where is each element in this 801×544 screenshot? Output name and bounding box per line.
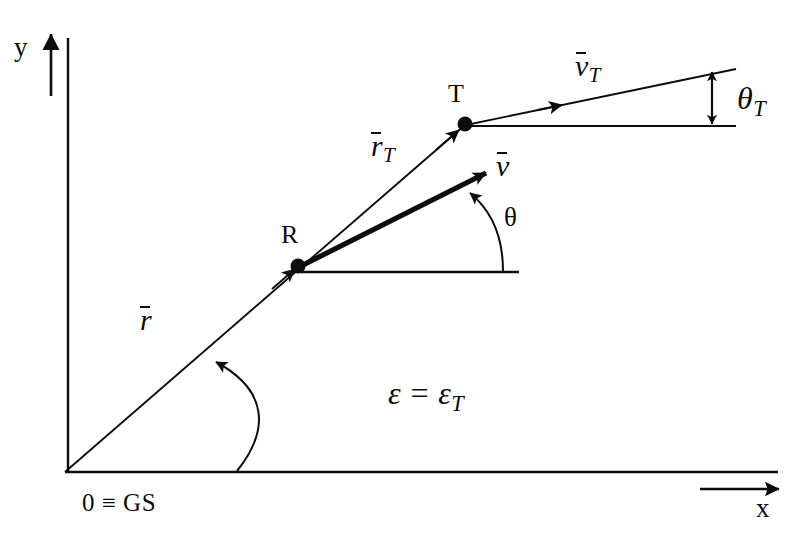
vT-vector-line: [466, 69, 736, 125]
epsilon-angle-arc: [216, 362, 259, 471]
y-axis-label: y: [14, 34, 28, 61]
vT-vector-arrowhead: [538, 105, 562, 110]
point-label-R: R: [281, 222, 298, 248]
point-marker-T: [458, 117, 473, 132]
vector-label-rT-subscript: T: [383, 143, 395, 167]
vector-label-rT-base: r: [371, 129, 383, 162]
angle-label-thetaT: θT: [737, 82, 765, 114]
angle-label-epsilon-base: ε = ε: [388, 375, 451, 411]
position-vector-line: [65, 125, 465, 472]
angle-label-epsilon: ε = εT: [388, 377, 463, 409]
origin-label: 0 ≡ GS: [82, 490, 156, 515]
r-vector-arrowhead: [272, 269, 295, 289]
point-label-T: T: [448, 81, 464, 107]
angle-label-thetaT-base: θ: [737, 80, 753, 116]
angle-label-theta: θ: [504, 204, 517, 231]
vector-label-rT: rT: [371, 131, 394, 161]
angle-label-epsilon-subscript: T: [451, 391, 463, 416]
angle-label-thetaT-subscript: T: [753, 96, 765, 121]
theta-angle-arc: [470, 193, 503, 271]
point-marker-R: [291, 259, 306, 274]
vector-label-r-base: r: [140, 303, 152, 336]
vector-label-v: v: [496, 151, 509, 181]
vector-label-vT-subscript: T: [589, 63, 601, 87]
diagram-canvas: y x 0 ≡ GS R T r rT v vT θ θT ε = εT: [0, 0, 801, 544]
vector-label-v-base: v: [496, 149, 509, 182]
rT-vector-arrowhead: [436, 130, 459, 150]
diagram-svg: [0, 0, 801, 544]
x-axis-label: x: [756, 495, 770, 522]
vector-label-vT: vT: [575, 51, 600, 81]
vector-label-vT-base: v: [575, 49, 588, 82]
vector-label-r: r: [140, 305, 152, 335]
